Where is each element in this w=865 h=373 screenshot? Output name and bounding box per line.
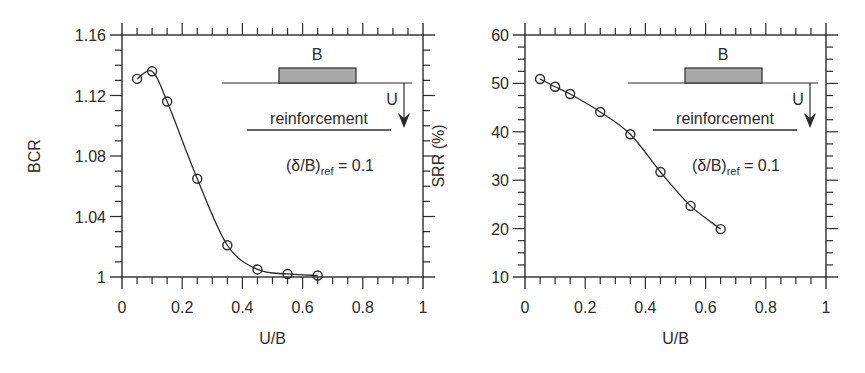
x-tick-label: 1 — [419, 299, 428, 316]
condition-prefix: (δ/B) — [286, 157, 321, 174]
x-axis-title: U/B — [662, 330, 689, 347]
figure: 00.20.40.60.8111.041.081.121.16U/BBCRBUr… — [0, 0, 865, 373]
x-tick-label: 0.6 — [291, 299, 313, 316]
srr-chart: 00.20.40.60.81102030405060U/BSRR (%)BUre… — [430, 23, 838, 347]
x-tick-label: 1 — [822, 299, 831, 316]
settlement-condition-label: (δ/B)ref = 0.1 — [286, 157, 374, 177]
footing-width-label: B — [718, 46, 729, 63]
reinforcement-label: reinforcement — [676, 110, 774, 127]
y-tick-label: 1.16 — [75, 27, 106, 44]
data-line — [540, 79, 721, 229]
x-tick-label: 0.6 — [694, 299, 716, 316]
y-tick-label: 1.08 — [75, 148, 106, 165]
condition-suffix: = 0.1 — [740, 157, 781, 174]
condition-prefix: (δ/B) — [692, 157, 727, 174]
x-tick-label: 0 — [118, 299, 127, 316]
y-tick-label: 50 — [491, 75, 509, 92]
condition-subscript: ref — [321, 165, 335, 177]
condition-suffix: = 0.1 — [334, 157, 375, 174]
x-tick-label: 0.4 — [231, 299, 253, 316]
bcr-chart: 00.20.40.60.8111.041.081.121.16U/BBCRBUr… — [26, 23, 435, 347]
y-tick-label: 10 — [491, 269, 509, 286]
x-tick-label: 0.4 — [634, 299, 656, 316]
plot-frame — [525, 35, 826, 277]
y-tick-label: 1.12 — [75, 88, 106, 105]
plot-frame — [122, 35, 423, 277]
y-tick-label: 20 — [491, 221, 509, 238]
settlement-condition-label: (δ/B)ref = 0.1 — [692, 157, 780, 177]
y-axis-title: SRR (%) — [430, 124, 447, 187]
x-axis-title: U/B — [259, 330, 286, 347]
y-tick-label: 1.04 — [75, 209, 106, 226]
footing-rectangle — [279, 68, 356, 83]
y-tick-label: 30 — [491, 172, 509, 189]
footing-rectangle — [685, 68, 762, 83]
y-tick-label: 40 — [491, 124, 509, 141]
y-tick-label: 1 — [97, 269, 106, 286]
y-tick-label: 60 — [491, 27, 509, 44]
y-axis-title: BCR — [26, 139, 43, 173]
reinforcement-label: reinforcement — [270, 110, 368, 127]
depth-label: U — [386, 91, 398, 108]
x-tick-label: 0 — [521, 299, 530, 316]
charts-canvas: 00.20.40.60.8111.041.081.121.16U/BBCRBUr… — [0, 0, 865, 373]
x-tick-label: 0.8 — [352, 299, 374, 316]
footing-width-label: B — [312, 46, 323, 63]
depth-label: U — [792, 91, 804, 108]
x-tick-label: 0.2 — [574, 299, 596, 316]
x-tick-label: 0.8 — [755, 299, 777, 316]
condition-subscript: ref — [727, 165, 741, 177]
x-tick-label: 0.2 — [171, 299, 193, 316]
